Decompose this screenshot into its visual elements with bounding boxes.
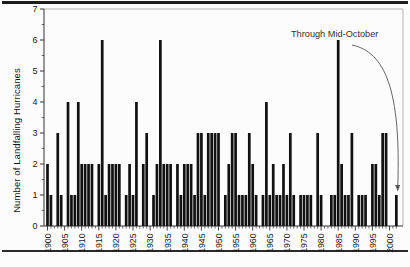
x-tick-label: 1930 [145, 233, 155, 252]
hurricane-bar-1949 [214, 133, 217, 226]
hurricane-bar-1945 [200, 133, 203, 226]
x-tick-label: 1995 [368, 233, 378, 252]
y-tick-label: 0 [32, 221, 37, 231]
y-tick-label: 4 [32, 97, 37, 107]
hurricane-bar-1931 [152, 195, 155, 226]
x-tick-label: 1940 [180, 233, 190, 252]
hurricane-bar-1936 [169, 164, 172, 226]
hurricane-bar-1942 [190, 164, 193, 226]
x-tick-label: 1950 [214, 233, 224, 252]
hurricane-bar-1934 [162, 164, 165, 226]
hurricane-bar-1923 [125, 195, 128, 226]
hurricane-bar-1972 [292, 195, 295, 226]
hurricane-bar-1928 [142, 164, 145, 226]
x-tick-label: 1965 [265, 233, 275, 252]
hurricane-bar-1958 [245, 195, 248, 226]
y-tick-label: 1 [32, 190, 37, 200]
hurricane-bar-1966 [272, 164, 275, 226]
hurricane-bar-1980 [320, 195, 323, 226]
hurricane-bar-chart: 01234567 1900190519101915192019251930193… [0, 0, 410, 267]
hurricane-bar-1935 [166, 164, 169, 226]
x-tick-label: 1915 [94, 233, 104, 252]
annotation-arrowhead [395, 185, 400, 192]
hurricane-bar-1964 [265, 102, 268, 226]
hurricane-bar-1998 [381, 133, 384, 226]
hurricane-bar-1967 [275, 195, 278, 226]
hurricane-bar-1997 [378, 195, 381, 226]
y-tick-label: 5 [32, 66, 37, 76]
y-tick-label: 6 [32, 35, 37, 45]
hurricane-bar-1908 [74, 195, 77, 226]
hurricane-bar-1996 [374, 164, 377, 226]
hurricane-bar-1933 [159, 40, 162, 226]
x-tick-label: 1980 [316, 233, 326, 252]
x-tick-label: 1970 [282, 233, 292, 252]
hurricane-landfall-figure: Number of Landfalling Hurricanes Through… [0, 0, 410, 267]
y-tick-label: 3 [32, 128, 37, 138]
hurricane-bar-1986 [340, 164, 343, 226]
hurricane-bar-1944 [197, 133, 200, 226]
y-tick-label: 7 [32, 4, 37, 14]
x-tick-label: 1925 [128, 233, 138, 252]
hurricane-bar-1963 [262, 195, 265, 226]
hurricane-bar-1943 [193, 195, 196, 226]
x-tick-label: 1920 [111, 233, 121, 252]
x-tick-label: 1945 [197, 233, 207, 252]
hurricane-bar-1929 [145, 133, 148, 226]
hurricane-bar-1954 [231, 133, 234, 226]
hurricane-bar-1926 [135, 102, 138, 226]
hurricane-bar-1953 [227, 164, 230, 226]
hurricane-bar-1977 [309, 195, 312, 226]
hurricane-bar-1915 [97, 164, 100, 226]
bars [46, 40, 398, 226]
hurricane-bar-1925 [132, 195, 135, 226]
hurricane-bar-1909 [77, 102, 80, 226]
hurricane-bar-1983 [330, 195, 333, 226]
hurricane-bar-1910 [80, 164, 83, 226]
hurricane-bar-1970 [286, 195, 289, 226]
hurricane-bar-1957 [241, 195, 244, 226]
x-tick-label: 1900 [43, 233, 53, 252]
x-tick-label: 1975 [299, 233, 309, 252]
hurricane-bar-1971 [289, 133, 292, 226]
hurricane-bar-1991 [357, 195, 360, 226]
hurricane-bar-1988 [347, 195, 350, 226]
hurricane-bar-1974 [299, 195, 302, 226]
hurricane-bar-1912 [87, 164, 90, 226]
hurricane-bar-1975 [303, 195, 306, 226]
hurricane-bar-1968 [279, 195, 282, 226]
x-tick-label: 1955 [231, 233, 241, 252]
hurricane-bar-1989 [351, 133, 354, 226]
x-tick-label: 1905 [60, 233, 70, 252]
hurricane-bar-1904 [60, 195, 63, 226]
x-tick-label: 1935 [163, 233, 173, 252]
hurricane-bar-1916 [101, 40, 104, 226]
hurricane-bar-1976 [306, 195, 309, 226]
hurricane-bar-1992 [361, 195, 364, 226]
hurricane-bar-1993 [364, 195, 367, 226]
hurricane-bar-1901 [50, 195, 53, 226]
hurricane-bar-1999 [385, 133, 388, 226]
hurricane-bar-1900 [46, 164, 49, 226]
x-tick-label: 1990 [351, 233, 361, 252]
hurricane-bar-1948 [210, 133, 213, 226]
hurricane-bar-1907 [70, 195, 73, 226]
hurricane-bar-1940 [183, 164, 186, 226]
hurricane-bar-1959 [248, 133, 251, 226]
x-tick-label: 1985 [334, 233, 344, 252]
hurricane-bar-1984 [333, 195, 336, 226]
hurricane-bar-1939 [180, 195, 183, 226]
hurricane-bar-1938 [176, 164, 179, 226]
hurricane-bar-1969 [282, 164, 285, 226]
hurricane-bar-1932 [156, 164, 159, 226]
hurricane-bar-2002 [395, 195, 398, 226]
hurricane-bar-1960 [251, 164, 254, 226]
hurricane-bar-1906 [67, 102, 70, 226]
hurricane-bar-1952 [224, 195, 227, 226]
hurricane-bar-1985 [337, 40, 340, 226]
x-tick-label: 1960 [248, 233, 258, 252]
hurricane-bar-1947 [207, 133, 210, 226]
hurricane-bar-1911 [84, 164, 87, 226]
y-axis: 01234567 [32, 4, 44, 231]
hurricane-bar-1918 [108, 164, 111, 226]
